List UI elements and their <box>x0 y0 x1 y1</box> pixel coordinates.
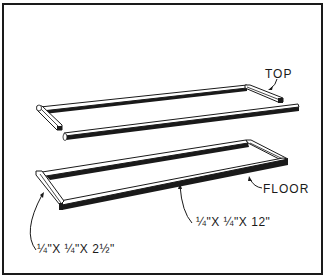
border-frame <box>3 4 322 274</box>
diagram-canvas: TOP FLOOR ¼"X ¼"X 12" ¼"X ¼"X 2½" <box>0 0 326 278</box>
top-label: TOP <box>265 68 292 80</box>
short-rail-dimension: ¼"X ¼"X 2½" <box>37 243 115 255</box>
floor-label: FLOOR <box>263 183 309 195</box>
top-frame <box>37 79 300 141</box>
floor-frame <box>30 140 288 250</box>
assembly-drawing <box>0 0 326 278</box>
long-rail-dimension: ¼"X ¼"X 12" <box>196 216 270 228</box>
